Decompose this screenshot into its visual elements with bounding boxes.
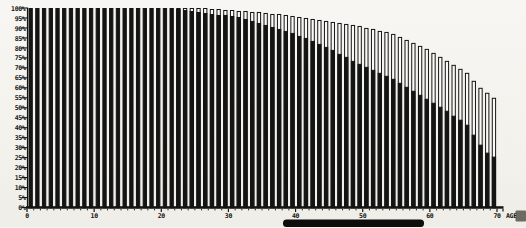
bar-age-23 — [177, 9, 180, 208]
bar-solid-segment — [392, 79, 395, 207]
bar-age-5 — [56, 9, 59, 208]
bar-solid-segment — [170, 9, 173, 208]
bar-solid-segment — [237, 17, 240, 207]
y-tick-label: 5% — [18, 194, 26, 202]
x-tick-label: 30 — [225, 212, 233, 220]
bar-solid-segment — [157, 9, 160, 208]
bar-solid-segment — [452, 116, 455, 208]
y-tick-label: 15% — [15, 174, 26, 182]
bar-solid-segment — [432, 103, 435, 208]
bar-age-70 — [492, 98, 495, 208]
bar-age-48 — [345, 24, 348, 207]
y-tick-label: 100% — [11, 5, 26, 13]
y-tick-label: 75% — [15, 54, 26, 62]
bar-age-33 — [244, 11, 247, 207]
y-tick-label: 50% — [15, 104, 26, 112]
x-tick-label: 10 — [91, 212, 99, 220]
bar-solid-segment — [338, 54, 341, 207]
bar-age-9 — [83, 9, 86, 208]
bar-solid-segment — [63, 9, 66, 208]
bar-solid-segment — [465, 125, 468, 208]
bar-solid-segment — [418, 95, 421, 208]
bar-solid-segment — [83, 9, 86, 208]
x-tick-label: 50 — [359, 212, 367, 220]
bar-solid-segment — [298, 36, 301, 207]
bar-solid-segment — [217, 15, 220, 207]
bar-age-43 — [311, 19, 314, 207]
y-tick-label: 55% — [15, 94, 26, 102]
x-axis-line — [26, 206, 504, 209]
bar-age-68 — [479, 88, 482, 208]
bar-age-58 — [412, 43, 415, 207]
bar-age-50 — [358, 26, 361, 207]
bar-solid-segment — [143, 9, 146, 208]
bar-solid-segment — [163, 9, 166, 208]
bar-age-10 — [89, 9, 92, 208]
bar-age-15 — [123, 9, 126, 208]
y-tick-label: 85% — [15, 35, 26, 43]
bar-solid-segment — [378, 73, 381, 207]
bar-solid-segment — [365, 67, 368, 207]
bar-solid-segment — [492, 157, 495, 208]
bar-solid-segment — [257, 23, 260, 207]
y-tick-label: 25% — [15, 154, 26, 162]
bar-age-4 — [49, 9, 52, 208]
bar-age-66 — [465, 73, 468, 207]
bar-age-18 — [143, 9, 146, 208]
bar-solid-segment — [425, 99, 428, 208]
bar-solid-segment — [204, 13, 207, 207]
bar-solid-segment — [345, 57, 348, 207]
bar-solid-segment — [89, 9, 92, 208]
bar-solid-segment — [304, 38, 307, 207]
bar-solid-segment — [230, 16, 233, 207]
y-tick-label: 10% — [15, 184, 26, 192]
bar-age-21 — [163, 9, 166, 208]
bar-age-67 — [472, 81, 475, 207]
bar-age-31 — [230, 10, 233, 207]
bar-age-42 — [304, 18, 307, 207]
bar-solid-segment — [56, 9, 59, 208]
bars-layer — [29, 9, 496, 208]
bar-age-56 — [398, 37, 401, 207]
bar-solid-segment — [398, 83, 401, 207]
y-tick-label: 40% — [15, 124, 26, 132]
bar-solid-segment — [318, 44, 321, 207]
bar-age-16 — [130, 9, 133, 208]
bar-age-12 — [103, 9, 106, 208]
bar-solid-segment — [412, 91, 415, 208]
bar-solid-segment — [244, 19, 247, 207]
bar-age-54 — [385, 32, 388, 207]
bar-age-51 — [365, 28, 368, 207]
bar-age-69 — [486, 93, 489, 208]
bar-solid-segment — [479, 145, 482, 208]
bar-age-1 — [29, 9, 32, 208]
x-tick-label: 20 — [158, 212, 166, 220]
bar-age-7 — [69, 9, 72, 208]
x-tick-label: 70 — [493, 212, 501, 220]
bar-solid-segment — [284, 31, 287, 207]
y-tick-label: 35% — [15, 134, 26, 142]
bar-age-64 — [452, 65, 455, 207]
bar-age-53 — [378, 31, 381, 207]
bar-age-25 — [190, 9, 193, 208]
bar-age-60 — [425, 49, 428, 207]
bar-solid-segment — [486, 153, 489, 208]
axes-layer — [22, 8, 504, 213]
y-tick-label: 90% — [15, 25, 26, 33]
bar-solid-segment — [251, 21, 254, 207]
bar-solid-segment — [277, 29, 280, 207]
scan-artifact-right-edge-smudge — [516, 211, 526, 222]
bar-solid-segment — [264, 25, 267, 207]
bar-solid-segment — [459, 120, 462, 208]
bar-age-26 — [197, 9, 200, 208]
scan-artifact-bottom-smudge — [283, 220, 424, 228]
bar-solid-segment — [136, 9, 139, 208]
bar-age-37 — [271, 14, 274, 207]
x-tick-label: 40 — [292, 212, 300, 220]
y-tick-label: 0% — [18, 204, 26, 212]
x-tick-label: 0 — [25, 212, 29, 220]
bar-solid-segment — [36, 9, 39, 208]
bar-solid-segment — [76, 9, 79, 208]
bar-age-3 — [42, 9, 45, 208]
bar-solid-segment — [385, 76, 388, 207]
